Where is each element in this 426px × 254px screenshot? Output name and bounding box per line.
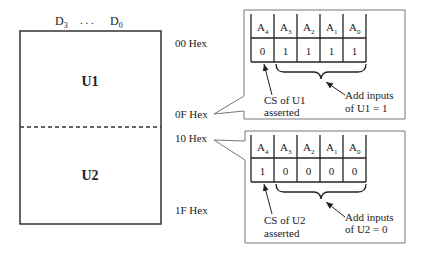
svg-text:. . .: . . . (80, 14, 94, 26)
svg-text:0: 0 (306, 165, 312, 177)
address-u2-end: 1F Hex (175, 204, 208, 216)
svg-text:1: 1 (283, 45, 289, 57)
svg-text:D0: D0 (110, 14, 123, 30)
add-u2-label: Add inputs (345, 211, 394, 223)
cs-u1-label-line2: asserted (264, 106, 300, 118)
data-bus-label: D3 . . . D0 (55, 14, 123, 30)
svg-text:1: 1 (260, 165, 266, 177)
add-u2-label-line2: of U2 = 0 (345, 223, 388, 235)
chip-u1-label: U1 (81, 74, 98, 89)
svg-text:1: 1 (352, 45, 358, 57)
svg-text:1: 1 (306, 45, 312, 57)
address-u1-end: 0F Hex (175, 108, 208, 120)
cs-u1-label: CS of U1 (264, 94, 306, 106)
svg-text:D3: D3 (55, 14, 68, 30)
add-u1-label-line2: of U1 = 1 (345, 102, 388, 114)
add-u1-label: Add inputs (345, 89, 394, 101)
svg-text:1: 1 (329, 45, 335, 57)
svg-text:0: 0 (260, 45, 266, 57)
memory-decoding-diagram: D3 . . . D0 U1 U2 00 Hex 0F Hex 10 Hex 1… (0, 0, 426, 254)
svg-text:0: 0 (283, 165, 289, 177)
cs-u2-label: CS of U2 (264, 214, 306, 226)
chip-u2-label: U2 (81, 168, 98, 183)
svg-text:0: 0 (352, 165, 358, 177)
cs-u2-label-line2: asserted (264, 227, 300, 239)
address-u2-start: 10 Hex (175, 132, 208, 144)
address-u1-start: 00 Hex (175, 37, 208, 49)
svg-text:0: 0 (329, 165, 335, 177)
